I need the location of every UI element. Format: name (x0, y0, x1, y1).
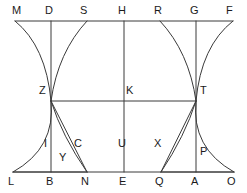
point-label-c: C (74, 138, 82, 149)
point-label-u: U (118, 138, 126, 149)
point-label-z: Z (39, 85, 46, 96)
curve-S-to-Z (51, 21, 87, 101)
curve-T-to-O (195, 101, 234, 172)
geometry-diagram: MDSHRGFZKTICUXYPLBNEQAO (0, 0, 247, 193)
point-label-p: P (200, 146, 207, 157)
point-label-n: N (81, 176, 89, 187)
point-label-o: O (227, 176, 236, 187)
point-label-s: S (80, 5, 87, 16)
point-label-i: I (44, 138, 47, 149)
curve-R-to-T (160, 21, 196, 101)
point-label-h: H (118, 5, 126, 16)
point-label-r: R (154, 5, 162, 16)
point-label-a: A (191, 176, 198, 187)
point-label-f: F (226, 5, 233, 16)
point-label-b: B (46, 176, 53, 187)
point-label-k: K (126, 85, 133, 96)
point-label-m: M (12, 5, 21, 16)
geometry-canvas (0, 0, 247, 193)
point-label-q: Q (155, 176, 164, 187)
point-label-t: T (200, 85, 207, 96)
point-label-g: G (190, 5, 199, 16)
point-label-d: D (45, 5, 53, 16)
point-label-l: L (8, 176, 14, 187)
point-label-e: E (119, 176, 126, 187)
line-chord-TQ (161, 101, 196, 172)
point-label-x: X (154, 138, 161, 149)
point-label-y: Y (59, 152, 66, 163)
